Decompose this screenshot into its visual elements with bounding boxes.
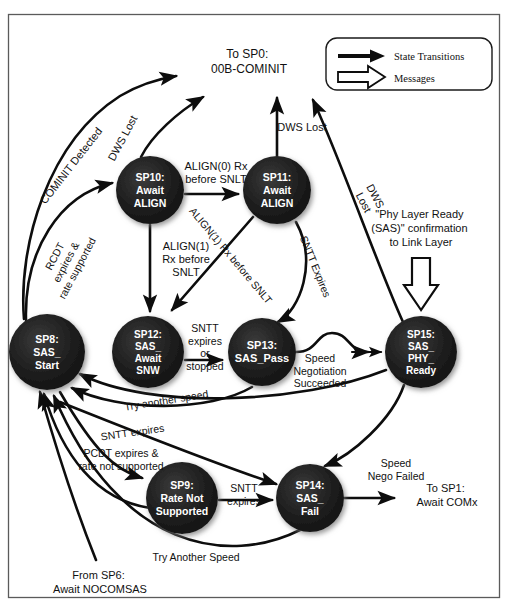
state-node-label-line: SP11: [263, 171, 292, 183]
state-node-label-line: SP10: [135, 171, 164, 183]
edge-label-line: DWS Lost [106, 113, 140, 162]
state-node-label-line: Ready [406, 365, 436, 376]
state-node-label-line: SAS_Pass [235, 352, 289, 364]
state-node-sp10[interactable]: SP10:AwaitALIGN [116, 156, 184, 224]
edge-label-layer: COMINIT DetectedRCDTexpires &rate suppor… [33, 113, 424, 563]
edge-label-sntt-expires-sp9: SNTTexpires [227, 482, 261, 507]
state-node-label-line: ALIGN [261, 197, 294, 209]
edge-sp15-sp14 [325, 385, 404, 466]
edge-label-line: ALIGN(0) Rx [185, 160, 248, 172]
state-node-label-line: SAS_ [296, 492, 324, 504]
state-node-sp11[interactable]: SP11:AwaitALIGN [243, 156, 311, 224]
edge-label-line: COMINIT Detected [37, 125, 104, 206]
state-node-label-line: SAS_ [33, 346, 61, 358]
state-node-label: SP8:SAS_Start [33, 333, 61, 371]
edge-label-line: Try Another Speed [152, 551, 239, 563]
state-node-label: SP15:SAS_PHY_Ready [406, 329, 436, 376]
state-node-label-line: PHY_ [408, 353, 435, 364]
edge-label-line: PCDT expires & [83, 447, 158, 459]
annotation-from-sp6-line-0: From SP6: [72, 569, 125, 581]
state-node-label-line: Await [136, 184, 164, 196]
state-node-label: SP12:SAS_AwaitSNW [134, 329, 162, 376]
edge-label-speed-nego-succeeded: SpeedNegotiationSucceeded [293, 352, 346, 389]
state-node-label-line: Await [135, 353, 162, 364]
edge-label-line: Speed [381, 457, 412, 469]
annotation-to-sp1-line-1: Await COMx [417, 496, 478, 508]
edge-label-line: Rx before [162, 253, 210, 265]
state-node-label-line: Rate Not [160, 492, 204, 504]
state-node-sp14[interactable]: SP14:SAS_Fail [276, 464, 344, 532]
edge-label-sntt-expires-sp11: SNTT Expires [298, 234, 334, 299]
state-node-sp8[interactable]: SP8:SAS_Start [9, 314, 85, 390]
annotation-phy-line-1: (SAS)" confirmation [371, 222, 467, 234]
annotation-from-sp6-line-1: Await NOCOMSAS [53, 583, 147, 595]
state-node-sp9[interactable]: SP9:Rate NotSupported [146, 462, 218, 534]
edge-label-rcdt-expires: RCDTexpires &rate supported [33, 223, 98, 300]
edge-sp10-to-sp0 [141, 97, 203, 157]
edge-label-line: Nego Failed [368, 470, 425, 482]
state-node-label-line: ALIGN [134, 197, 167, 209]
edge-label-align1-rx-sp10: ALIGN(1)Rx beforeSNLT [162, 240, 210, 278]
state-node-label-line: Start [35, 359, 59, 371]
edge-label-line: expires [227, 495, 261, 507]
edge-label-line: SNLT [172, 266, 200, 278]
state-node-label-line: Supported [156, 505, 209, 517]
legend-label-state-transitions: State Transitions [394, 51, 464, 62]
state-node-label: SP10:AwaitALIGN [134, 171, 167, 209]
legend-label-messages: Messages [394, 73, 435, 84]
annotation-from-sp6: From SP6: Await NOCOMSAS [53, 569, 147, 595]
edge-label-line: before SNLT [185, 173, 247, 185]
state-node-label-line: SP12: [134, 329, 162, 340]
hollow-arrow-icon [404, 258, 438, 310]
state-node-label-line: Await [263, 184, 291, 196]
legend: State Transitions Messages [326, 38, 492, 90]
phy-ready-message-arrow [404, 258, 438, 310]
state-node-label-line: SAS_ [408, 341, 435, 352]
annotation-to-sp0: To SP0: 00B-COMINIT [211, 47, 288, 76]
edge-label-try-another-speed-2: Try Another Speed [152, 551, 239, 563]
state-node-sp15[interactable]: SP15:SAS_PHY_Ready [385, 316, 457, 388]
annotation-to-sp1-line-0: To SP1: [426, 482, 465, 494]
annotation-to-sp0-line-1: 00B-COMINIT [211, 62, 288, 76]
state-node-label-line: SP14: [295, 479, 324, 491]
state-node-label-line: SP13: [247, 339, 278, 351]
edge-label-speed-nego-failed: SpeedNego Failed [368, 457, 425, 482]
state-node-label-line: SP15: [407, 329, 435, 340]
state-node-sp13[interactable]: SP13:SAS_Pass [228, 318, 296, 386]
edge-label-line: SNTT Expires [298, 234, 334, 299]
annotation-phy-line-2: to Link Layer [390, 236, 453, 248]
edge-label-dws-lost-sp11: DWS Lost [277, 121, 327, 133]
annotation-to-sp1: To SP1: Await COMx [417, 482, 478, 508]
edge-label-line: rate not supported [78, 460, 163, 472]
state-node-label-line: SAS_ [135, 341, 162, 352]
edge-label-line: DWS Lost [277, 121, 327, 133]
edge-label-align0-rx: ALIGN(0) Rxbefore SNLT [185, 160, 248, 185]
edge-label-sntt-expires-or-stopped: SNTTexpiresorstopped [186, 322, 224, 372]
edge-label-line: expires [188, 335, 222, 347]
edge-label-line: SNTT [191, 322, 219, 334]
edge-label-line: SNTT [230, 482, 258, 494]
state-node-label-line: SP9: [170, 479, 193, 491]
annotation-phy-line-0: "Phy Layer Ready [375, 208, 464, 220]
edge-label-line: ALIGN(1) [163, 240, 209, 252]
state-node-label-line: Fail [301, 505, 319, 517]
state-node-label: SP11:AwaitALIGN [261, 171, 294, 209]
annotation-to-sp0-line-0: To SP0: [226, 47, 268, 61]
edge-label-pcdt-expires: PCDT expires &rate not supported [78, 447, 163, 472]
edge-label-line: Succeeded [294, 377, 347, 389]
annotation-phy-ready-message: "Phy Layer Ready (SAS)" confirmation to … [371, 208, 470, 248]
edge-label-line: Speed [305, 352, 336, 364]
state-node-label-line: SP8: [35, 333, 58, 345]
edge-label-cominit-detected: COMINIT Detected [37, 125, 104, 206]
edge-sp13-sp15 [296, 333, 368, 352]
state-diagram: SP8:SAS_StartSP10:AwaitALIGNSP11:AwaitAL… [0, 0, 508, 611]
diagram-frame [9, 15, 500, 598]
state-node-sp12[interactable]: SP12:SAS_AwaitSNW [112, 316, 184, 388]
edge-label-dws-lost-sp10: DWS Lost [106, 113, 140, 162]
diagram-canvas: SP8:SAS_StartSP10:AwaitALIGNSP11:AwaitAL… [0, 0, 508, 611]
edge-label-line: Negotiation [293, 365, 346, 377]
edge-label-line: stopped [186, 360, 224, 372]
state-node-label-line: SNW [136, 365, 160, 376]
edge-label-line: or [200, 347, 210, 359]
